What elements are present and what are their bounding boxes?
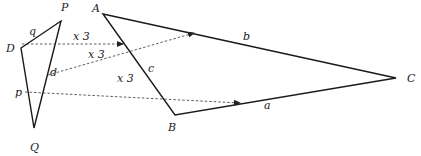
side-label-q: q: [29, 25, 36, 38]
side-label-a: a: [264, 99, 271, 112]
vertex-label-d: D: [5, 42, 15, 55]
scale-arrow-p-to-a: [25, 92, 240, 103]
side-label-b: b: [243, 30, 250, 43]
side-label-p: p: [15, 86, 22, 99]
scale-label-1: x 3: [73, 30, 90, 43]
scale-label-3: x 3: [117, 72, 134, 85]
diagram-canvas: x 3 x 3 x 3 P D Q q d p A B C b c a: [0, 0, 421, 156]
vertex-label-q: Q: [30, 141, 39, 154]
scale-label-2: x 3: [88, 48, 105, 61]
side-label-d: d: [50, 66, 57, 79]
vertex-label-b: B: [167, 121, 176, 134]
vertex-label-a: A: [91, 2, 100, 15]
vertex-label-c: C: [407, 72, 416, 85]
vertex-label-p: P: [60, 1, 69, 14]
side-label-c: c: [148, 62, 154, 75]
